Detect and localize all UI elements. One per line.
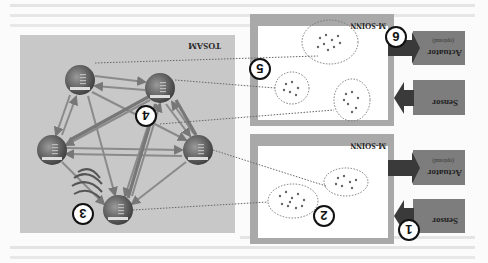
msoinn-label: M-SOINN bbox=[350, 21, 386, 30]
sensor-block: Sensor bbox=[413, 199, 465, 233]
actuator-sublabel: (optional) bbox=[432, 37, 454, 44]
actuator-block: Actuator (optional) bbox=[413, 150, 465, 185]
callout-5: 5 bbox=[250, 59, 270, 79]
msoinn-module-bottom: M-SOINN bbox=[250, 134, 394, 244]
svg-text:6: 6 bbox=[392, 29, 399, 44]
node-sphere bbox=[145, 73, 175, 103]
tosam-label: TOSAM bbox=[188, 41, 221, 51]
node-sphere bbox=[103, 195, 133, 225]
io-blocks: Actuator (optional) Sensor Actuator (opt… bbox=[413, 31, 465, 233]
callout-6: 6 bbox=[386, 27, 406, 47]
msoinn-label: M-SOINN bbox=[350, 141, 386, 150]
arrow-left-icon bbox=[394, 82, 414, 114]
svg-text:4: 4 bbox=[142, 108, 150, 123]
callout-3: 3 bbox=[73, 204, 93, 224]
actuator-label: Actuator bbox=[428, 168, 463, 178]
actuator-block: Actuator (optional) bbox=[413, 31, 465, 65]
actuator-sublabel: (optional) bbox=[432, 157, 454, 164]
figure: TOSAM bbox=[0, 0, 488, 263]
callout-4: 4 bbox=[136, 106, 156, 126]
svg-text:3: 3 bbox=[79, 206, 86, 221]
sensor-label: Sensor bbox=[432, 98, 458, 108]
node-sphere bbox=[65, 65, 95, 95]
sensor-label: Sensor bbox=[432, 216, 458, 226]
node-sphere bbox=[183, 135, 213, 165]
svg-text:1: 1 bbox=[405, 222, 412, 237]
svg-text:2: 2 bbox=[320, 208, 327, 223]
diagram-canvas: TOSAM bbox=[0, 0, 488, 263]
callout-1: 1 bbox=[399, 220, 419, 240]
callout-2: 2 bbox=[314, 206, 334, 226]
msoinn-module-top: M-SOINN bbox=[250, 14, 394, 126]
node-sphere bbox=[37, 135, 67, 165]
sensor-block: Sensor bbox=[413, 80, 465, 115]
svg-text:5: 5 bbox=[256, 61, 263, 76]
actuator-label: Actuator bbox=[428, 48, 463, 58]
